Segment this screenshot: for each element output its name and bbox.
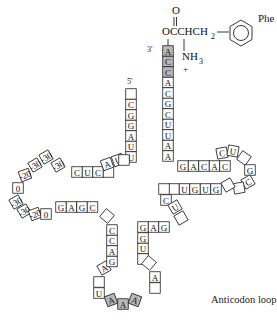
five-prime-label: 5' bbox=[127, 77, 133, 86]
t-arm-nt: C bbox=[199, 161, 210, 172]
svg-text:C: C bbox=[109, 226, 115, 236]
d-arm-nt: C bbox=[93, 167, 104, 178]
acceptor-3prime-nt: A bbox=[163, 151, 174, 162]
anticodon-nt: A bbox=[104, 293, 118, 307]
svg-text:+: + bbox=[183, 64, 188, 74]
svg-text:G: G bbox=[161, 223, 168, 233]
svg-text:3: 3 bbox=[199, 57, 203, 66]
acceptor-3prime-nt: C bbox=[163, 67, 174, 78]
anticodon-loop-nt: U bbox=[94, 288, 105, 299]
svg-text:C: C bbox=[74, 168, 80, 178]
anticodon-loop-label: Anticodon loop bbox=[211, 294, 277, 305]
svg-text:G: G bbox=[140, 223, 147, 233]
svg-text:0: 0 bbox=[16, 184, 21, 194]
d-arm-nt: U bbox=[82, 167, 93, 178]
t-arm-nt: U bbox=[200, 184, 211, 195]
acceptor-5prime-nt: U bbox=[126, 141, 137, 152]
t-arm-nt bbox=[159, 184, 170, 195]
t-arm-nt: G bbox=[190, 184, 201, 195]
svg-text:G: G bbox=[192, 185, 199, 195]
acceptor-3prime-nt: A bbox=[163, 140, 174, 151]
carbonyl-oxygen: O bbox=[172, 4, 180, 16]
t-loop-nt bbox=[237, 151, 252, 166]
t-loop-nt: G bbox=[245, 165, 256, 176]
svg-text:C: C bbox=[128, 100, 134, 110]
acceptor-3prime-nt: C bbox=[163, 56, 174, 67]
svg-text:U: U bbox=[181, 185, 188, 195]
d-loop-nt: 0 bbox=[13, 183, 24, 194]
svg-text:C: C bbox=[165, 110, 171, 120]
anticodon-loop-nt bbox=[150, 283, 161, 294]
svg-text:C: C bbox=[95, 168, 101, 178]
acceptor-3prime-nt: G bbox=[163, 98, 174, 109]
t-loop-nt: U bbox=[227, 145, 239, 157]
anticodon-nt: A bbox=[128, 293, 142, 307]
t-arm-nt: G bbox=[178, 161, 189, 172]
d-arm-nt: G bbox=[77, 202, 88, 213]
t-arm-nt: A bbox=[188, 161, 199, 172]
acceptor-3prime-nt: A bbox=[163, 46, 174, 57]
anticodon-stem-nt: A bbox=[107, 246, 118, 257]
svg-text:U: U bbox=[202, 185, 209, 195]
anticodon-stem-nt: G bbox=[138, 222, 149, 233]
svg-text:C: C bbox=[165, 57, 171, 67]
acceptor-5prime-nt: A bbox=[126, 131, 137, 142]
t-loop-nt bbox=[221, 178, 235, 192]
svg-text:G: G bbox=[213, 185, 220, 195]
svg-text:G: G bbox=[180, 162, 187, 172]
d-arm-nt: C bbox=[87, 202, 98, 213]
d-loop-nt: 0 bbox=[41, 209, 52, 220]
svg-text:U: U bbox=[165, 120, 172, 130]
svg-text:C: C bbox=[109, 236, 115, 246]
acceptor-5prime-nt: C bbox=[126, 99, 137, 110]
svg-text:C: C bbox=[201, 162, 207, 172]
acceptor-3prime-nt: U bbox=[163, 130, 174, 141]
svg-text:A: A bbox=[165, 47, 172, 57]
anticodon-loop-nt: A bbox=[150, 272, 161, 283]
svg-text:U: U bbox=[96, 289, 103, 299]
trna-diagram: O OCCHCH 2 Phe NH 3 + 3' 5' Anticodon lo… bbox=[0, 0, 277, 325]
svg-text:A: A bbox=[165, 141, 172, 151]
three-prime-label: 3' bbox=[147, 45, 153, 54]
anticodon-stem-nt: A bbox=[148, 222, 159, 233]
acceptor-5prime-nt: G bbox=[126, 120, 137, 131]
svg-text:U: U bbox=[140, 244, 147, 254]
svg-text:-30: -30 bbox=[51, 158, 67, 173]
t-arm-nt bbox=[169, 184, 180, 195]
svg-text:2: 2 bbox=[211, 32, 215, 41]
t-arm-nt: C bbox=[220, 161, 231, 172]
amino-group: NH bbox=[182, 50, 198, 62]
t-loop-nt bbox=[233, 182, 245, 194]
anticodon-loop-nt bbox=[94, 277, 105, 288]
svg-text:C: C bbox=[222, 162, 228, 172]
svg-text:A: A bbox=[150, 223, 157, 233]
d-arm-nt: A bbox=[66, 202, 77, 213]
svg-text:U: U bbox=[165, 131, 172, 141]
anticodon-nt: A bbox=[118, 299, 129, 310]
svg-text:G: G bbox=[128, 111, 135, 121]
svg-text:A: A bbox=[211, 162, 218, 172]
t-arm-nt: A bbox=[209, 161, 220, 172]
svg-text:G: G bbox=[128, 121, 135, 131]
variable-nt bbox=[174, 211, 188, 225]
svg-text:U: U bbox=[84, 168, 91, 178]
t-loop-nt: C bbox=[216, 147, 228, 159]
acceptor-3prime-nt: A bbox=[163, 77, 174, 88]
amino-acid-label: Phe bbox=[258, 12, 275, 24]
svg-text:C: C bbox=[89, 203, 95, 213]
svg-text:A: A bbox=[165, 78, 172, 88]
svg-text:A: A bbox=[165, 152, 172, 162]
svg-text:C: C bbox=[165, 68, 171, 78]
svg-text:C: C bbox=[163, 196, 169, 206]
acceptor-3prime-nt: C bbox=[163, 88, 174, 99]
anticodon-stem-nt: G bbox=[107, 256, 118, 267]
svg-text:0: 0 bbox=[44, 210, 49, 220]
t-arm-nt: G bbox=[211, 184, 222, 195]
svg-text:A: A bbox=[128, 132, 135, 142]
acceptor-5prime-nt: G bbox=[126, 110, 137, 121]
anticodon-stem-nt: C bbox=[107, 225, 118, 236]
acceptor-5prime-nt bbox=[126, 89, 137, 100]
svg-text:G: G bbox=[247, 166, 254, 176]
anticodon-stem-nt: G bbox=[159, 222, 170, 233]
svg-text:G: G bbox=[58, 203, 65, 213]
